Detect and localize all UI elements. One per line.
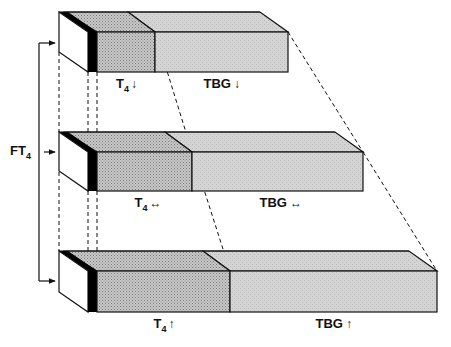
t4-label-normal: T4↔ — [135, 195, 162, 213]
free-t4-stripe — [88, 32, 97, 72]
tbg-label-high: TBG↑ — [316, 316, 352, 331]
tbg-front-face — [192, 152, 363, 191]
tbg-front-face — [155, 32, 288, 72]
t4-label-low: T4↓ — [116, 76, 137, 94]
tbg-label-low: TBG↓ — [204, 76, 240, 91]
tbg-top-face — [165, 132, 363, 152]
block-low: T4↓TBG↓ — [59, 12, 288, 94]
free-t4-stripe — [88, 152, 97, 191]
block-high: T4↑TBG↑ — [59, 251, 437, 334]
t4-front-face — [97, 271, 230, 312]
ft4-label: FT4 — [10, 143, 31, 161]
t4-front-face — [97, 152, 192, 191]
block-normal: T4↔TBG↔ — [59, 132, 363, 213]
ft4-bracket — [39, 43, 55, 281]
tbg-front-face — [230, 271, 437, 312]
tbg-label-normal: TBG↔ — [260, 195, 302, 210]
t4-front-face — [97, 32, 155, 72]
t4-label-high: T4↑ — [154, 316, 175, 334]
free-t4-stripe — [88, 271, 97, 312]
tbg-top-face — [128, 12, 288, 32]
tbg-top-face — [203, 251, 437, 271]
thyroid-binding-diagram: FT4 T4↓TBG↓T4↔TBG↔T4↑TBG↑ — [0, 0, 451, 347]
